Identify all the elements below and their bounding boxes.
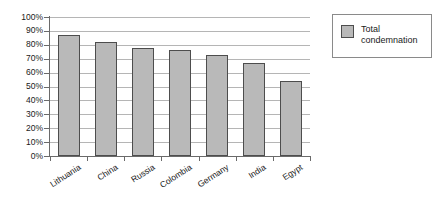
legend-item-total-condemnation: Total condemnation — [341, 24, 429, 46]
y-axis-tick-mark — [44, 114, 49, 115]
legend-swatch-icon — [341, 25, 354, 38]
y-axis-tick-mark — [44, 100, 49, 101]
legend-item-label: Total condemnation — [361, 24, 429, 46]
x-axis-tick-mark — [161, 157, 162, 161]
chart-legend: Total condemnation — [332, 14, 432, 58]
y-axis-tick-mark — [44, 142, 49, 143]
x-axis-tick-mark — [310, 157, 311, 161]
x-axis-tick-mark — [87, 157, 88, 161]
y-axis-tick-mark — [44, 87, 49, 88]
y-axis-tick-mark — [44, 128, 49, 129]
x-axis-tick-mark — [50, 157, 51, 161]
x-axis-tick-mark — [236, 157, 237, 161]
x-axis-tick-mark — [199, 157, 200, 161]
y-axis-tick-mark — [44, 31, 49, 32]
bar-chart-figure: 0%10%20%30%40%50%60%70%80%90%100% Lithua… — [0, 0, 440, 215]
y-axis-tick-mark — [44, 17, 49, 18]
x-axis-tick-mark — [273, 157, 274, 161]
y-axis-tick-mark — [44, 156, 49, 157]
x-axis-tick-mark — [124, 157, 125, 161]
y-axis-tick-mark — [44, 73, 49, 74]
y-axis-tick-mark — [44, 45, 49, 46]
y-axis-tick-mark — [44, 59, 49, 60]
